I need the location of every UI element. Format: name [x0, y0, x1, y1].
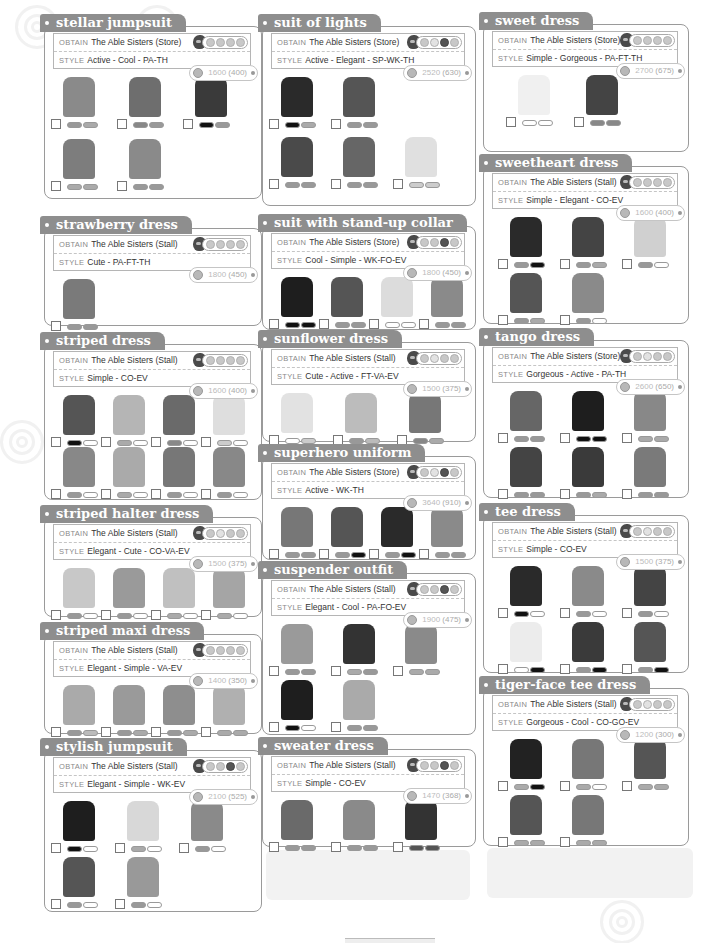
collected-checkbox[interactable] [498, 608, 508, 618]
collected-checkbox[interactable] [183, 119, 193, 129]
collected-checkbox[interactable] [622, 489, 632, 499]
entry-card: OBTAINThe Able Sisters (Stall) STYLECute… [44, 228, 262, 326]
collected-checkbox[interactable] [560, 259, 570, 269]
collected-checkbox[interactable] [51, 119, 61, 129]
collected-checkbox[interactable] [498, 664, 508, 674]
collected-checkbox[interactable] [560, 315, 570, 325]
color-swatch [285, 552, 300, 558]
collected-checkbox[interactable] [498, 781, 508, 791]
color-swatch [83, 846, 98, 852]
collected-checkbox[interactable] [622, 781, 632, 791]
obtain-row: OBTAINThe Able Sisters (Stall) [272, 581, 464, 598]
collected-checkbox[interactable] [115, 843, 125, 853]
collected-checkbox[interactable] [622, 433, 632, 443]
collected-checkbox[interactable] [560, 489, 570, 499]
collected-checkbox[interactable] [622, 664, 632, 674]
garment-image [572, 739, 604, 779]
collected-checkbox[interactable] [331, 666, 341, 676]
collected-checkbox[interactable] [269, 842, 279, 852]
color-swatch [363, 725, 378, 731]
collected-checkbox[interactable] [201, 610, 211, 620]
color-swatch [147, 846, 162, 852]
collected-checkbox[interactable] [101, 489, 111, 499]
collected-checkbox[interactable] [151, 489, 161, 499]
collected-checkbox[interactable] [331, 722, 341, 732]
color-swatch [215, 122, 230, 128]
collected-checkbox[interactable] [117, 181, 127, 191]
collected-checkbox[interactable] [560, 781, 570, 791]
color-swatch [363, 182, 378, 188]
variant-item [183, 75, 239, 133]
color-swatch [117, 613, 132, 619]
collected-checkbox[interactable] [331, 179, 341, 189]
garment-image [213, 447, 245, 487]
collected-checkbox[interactable] [498, 315, 508, 325]
color-swatch [133, 122, 148, 128]
collected-checkbox[interactable] [393, 179, 403, 189]
collected-checkbox[interactable] [201, 489, 211, 499]
collected-checkbox[interactable] [51, 727, 61, 737]
collected-checkbox[interactable] [201, 727, 211, 737]
color-swatch [592, 611, 607, 617]
collected-checkbox[interactable] [393, 842, 403, 852]
collected-checkbox[interactable] [393, 666, 403, 676]
collected-checkbox[interactable] [560, 433, 570, 443]
info-box: OBTAINThe Able Sisters (Stall) STYLECute… [271, 349, 465, 385]
collected-checkbox[interactable] [115, 899, 125, 909]
collected-checkbox[interactable] [419, 319, 429, 329]
collected-checkbox[interactable] [331, 119, 341, 129]
collected-checkbox[interactable] [560, 664, 570, 674]
collected-checkbox[interactable] [498, 433, 508, 443]
collected-checkbox[interactable] [574, 117, 584, 127]
collected-checkbox[interactable] [269, 549, 279, 559]
collected-checkbox[interactable] [622, 259, 632, 269]
color-swatch [83, 122, 98, 128]
entry-card: OBTAINThe Able Sisters (Store) STYLESimp… [483, 24, 689, 152]
collected-checkbox[interactable] [179, 843, 189, 853]
collected-checkbox[interactable] [506, 117, 516, 127]
obtain-row: OBTAINThe Able Sisters (Stall) [54, 352, 250, 369]
collected-checkbox[interactable] [269, 722, 279, 732]
collected-checkbox[interactable] [51, 899, 61, 909]
collected-checkbox[interactable] [369, 319, 379, 329]
garment-image [431, 277, 463, 317]
obtain-row: OBTAINThe Able Sisters (Store) [272, 34, 464, 51]
color-swatch [606, 120, 621, 126]
collected-checkbox[interactable] [560, 608, 570, 618]
collected-checkbox[interactable] [101, 727, 111, 737]
collected-checkbox[interactable] [51, 489, 61, 499]
collected-checkbox[interactable] [560, 837, 570, 847]
collected-checkbox[interactable] [498, 259, 508, 269]
price-badge: 1600 (400) [189, 65, 258, 81]
collected-checkbox[interactable] [419, 549, 429, 559]
collected-checkbox[interactable] [498, 837, 508, 847]
collected-checkbox[interactable] [269, 319, 279, 329]
variant-item [151, 566, 207, 624]
collected-checkbox[interactable] [269, 666, 279, 676]
collected-checkbox[interactable] [51, 610, 61, 620]
garment-image [572, 391, 604, 431]
collected-checkbox[interactable] [331, 842, 341, 852]
collected-checkbox[interactable] [51, 321, 61, 331]
obtain-row: OBTAINThe Able Sisters (Store) [493, 32, 677, 49]
collected-checkbox[interactable] [319, 549, 329, 559]
collected-checkbox[interactable] [498, 489, 508, 499]
collected-checkbox[interactable] [319, 319, 329, 329]
collected-checkbox[interactable] [51, 181, 61, 191]
collected-checkbox[interactable] [151, 610, 161, 620]
color-swatch [117, 730, 132, 736]
collected-checkbox[interactable] [51, 843, 61, 853]
collected-checkbox[interactable] [369, 549, 379, 559]
color-circles-icon [416, 236, 462, 249]
collected-checkbox[interactable] [622, 608, 632, 618]
collected-checkbox[interactable] [101, 610, 111, 620]
garment-image [510, 273, 542, 313]
collected-checkbox[interactable] [269, 119, 279, 129]
variant-grid [51, 393, 255, 495]
variant-item [331, 622, 387, 680]
collected-checkbox[interactable] [269, 179, 279, 189]
variant-grid [51, 566, 255, 612]
color-swatch [409, 845, 424, 851]
collected-checkbox[interactable] [151, 727, 161, 737]
collected-checkbox[interactable] [117, 119, 127, 129]
